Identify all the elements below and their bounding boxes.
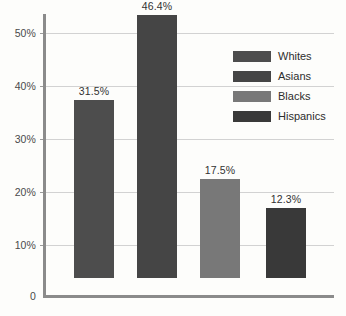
bar-chart: 50% 40% 30% 20% 10% 0 31.5% 46.4% 17.5% … xyxy=(0,0,346,316)
bar-value-label-whites: 31.5% xyxy=(79,85,109,97)
legend-item-asians[interactable]: Asians xyxy=(233,70,326,82)
legend: Whites Asians Blacks Hispanics xyxy=(233,50,326,122)
legend-label-whites: Whites xyxy=(278,50,312,62)
bar-value-label-blacks: 17.5% xyxy=(205,164,235,176)
bar-rect-whites xyxy=(74,100,114,278)
legend-label-hispanics: Hispanics xyxy=(278,110,326,122)
bar-rect-hispanics xyxy=(266,208,306,278)
legend-swatch-asians xyxy=(233,71,271,82)
legend-swatch-blacks xyxy=(233,91,271,102)
bars-layer: 31.5% 46.4% 17.5% 12.3% xyxy=(0,0,346,297)
bar-value-label-hispanics: 12.3% xyxy=(271,193,301,205)
legend-label-asians: Asians xyxy=(278,70,311,82)
bar-value-label-asians: 46.4% xyxy=(142,0,172,12)
legend-label-blacks: Blacks xyxy=(278,90,310,102)
bar-hispanics[interactable]: 12.3% xyxy=(266,208,306,278)
bar-whites[interactable]: 31.5% xyxy=(74,100,114,278)
bar-rect-asians xyxy=(137,15,177,278)
legend-item-whites[interactable]: Whites xyxy=(233,50,326,62)
legend-item-hispanics[interactable]: Hispanics xyxy=(233,110,326,122)
bar-blacks[interactable]: 17.5% xyxy=(200,179,240,278)
legend-swatch-hispanics xyxy=(233,111,271,122)
bar-asians[interactable]: 46.4% xyxy=(137,15,177,278)
legend-item-blacks[interactable]: Blacks xyxy=(233,90,326,102)
bar-rect-blacks xyxy=(200,179,240,278)
legend-swatch-whites xyxy=(233,51,271,62)
